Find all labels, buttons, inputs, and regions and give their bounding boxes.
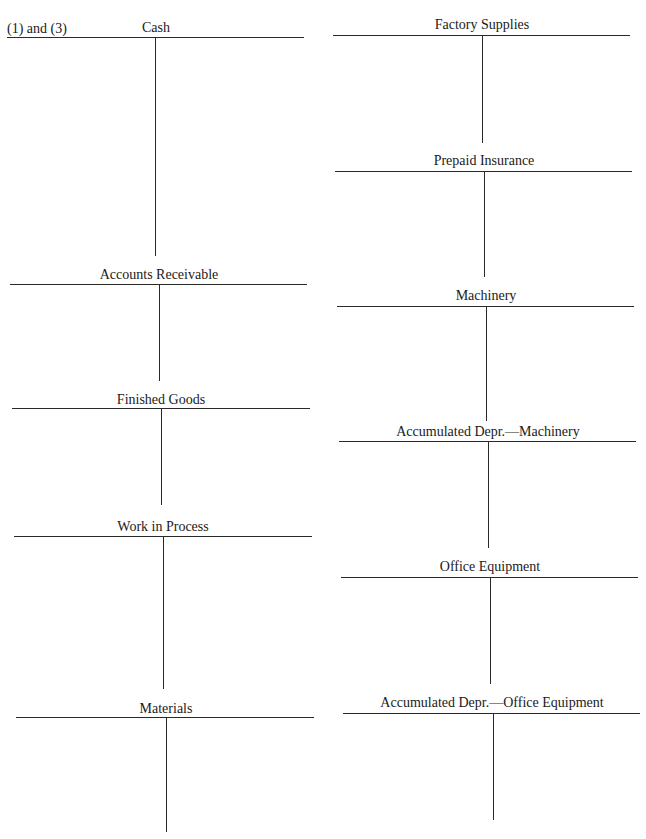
debit-side[interactable]: [7, 39, 154, 256]
debit-side[interactable]: [341, 579, 489, 684]
t-account-divider: [482, 36, 483, 143]
t-account-divider: [163, 537, 164, 689]
debit-side[interactable]: [16, 719, 165, 832]
t-account-divider: [493, 714, 494, 820]
credit-side[interactable]: [157, 39, 304, 256]
part-label: (1) and (3): [7, 21, 67, 37]
credit-side[interactable]: [486, 173, 632, 277]
debit-side[interactable]: [333, 37, 481, 143]
t-account-crossbar: [343, 713, 640, 714]
account-title: Work in Process: [117, 519, 208, 535]
account-title: Office Equipment: [440, 559, 540, 575]
debit-side[interactable]: [335, 173, 483, 277]
credit-side[interactable]: [495, 715, 640, 820]
debit-side[interactable]: [339, 443, 487, 548]
t-account-divider: [166, 718, 167, 832]
account-title: Materials: [140, 701, 193, 717]
credit-side[interactable]: [492, 579, 638, 684]
account-title: Accounts Receivable: [100, 267, 219, 283]
debit-side[interactable]: [343, 715, 492, 820]
account-title: Factory Supplies: [435, 17, 530, 33]
t-account-divider: [488, 442, 489, 548]
credit-side[interactable]: [165, 538, 312, 689]
debit-side[interactable]: [12, 410, 160, 505]
account-title: Cash: [142, 20, 170, 36]
account-title: Accumulated Depr.—Office Equipment: [380, 695, 603, 711]
debit-side[interactable]: [14, 538, 162, 689]
t-account-divider: [159, 285, 160, 381]
credit-side[interactable]: [488, 308, 634, 421]
credit-side[interactable]: [168, 719, 314, 832]
account-title: Prepaid Insurance: [434, 153, 535, 169]
credit-side[interactable]: [490, 443, 636, 548]
credit-side[interactable]: [161, 286, 307, 381]
t-account-divider: [155, 38, 156, 256]
debit-side[interactable]: [337, 308, 485, 421]
t-account-divider: [161, 409, 162, 505]
debit-side[interactable]: [10, 286, 158, 381]
t-account-divider: [484, 172, 485, 277]
t-account-divider: [490, 578, 491, 684]
t-account-divider: [486, 307, 487, 421]
account-title: Finished Goods: [117, 392, 205, 408]
credit-side[interactable]: [163, 410, 310, 505]
t-account-crossbar: [16, 717, 314, 718]
account-title: Accumulated Depr.—Machinery: [396, 424, 580, 440]
account-title: Machinery: [456, 288, 517, 304]
credit-side[interactable]: [484, 37, 630, 143]
